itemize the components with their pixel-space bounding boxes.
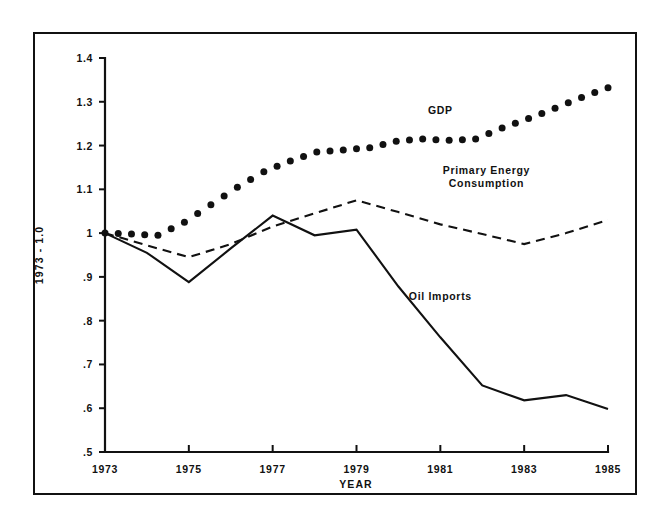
x-tick-label: 1979 xyxy=(343,463,369,475)
data-point xyxy=(366,144,373,151)
y-axis-title: 1973 - 1.0 xyxy=(33,226,45,284)
series-label-primary-energy-line1: Primary Energy xyxy=(443,164,530,176)
data-point xyxy=(181,219,188,226)
data-point xyxy=(499,125,506,132)
data-point xyxy=(287,157,294,164)
y-tick-label: .7 xyxy=(83,358,93,370)
data-point xyxy=(207,201,214,208)
y-tick-label: 1.4 xyxy=(77,52,93,64)
data-point xyxy=(247,176,254,183)
data-point xyxy=(234,184,241,191)
series-label-oil-imports: Oil Imports xyxy=(409,290,472,302)
data-series-group xyxy=(102,84,612,409)
y-tick-label: .9 xyxy=(83,271,93,283)
data-point xyxy=(274,163,281,170)
x-tick-label: 1981 xyxy=(427,463,453,475)
x-axis-title: YEAR xyxy=(339,478,373,490)
x-tick-label: 1977 xyxy=(260,463,286,475)
data-point xyxy=(393,138,400,145)
y-tick-label: 1.1 xyxy=(77,183,93,195)
data-point xyxy=(525,115,532,122)
y-tick-label: 1.3 xyxy=(77,96,93,108)
data-point xyxy=(419,135,426,142)
data-point xyxy=(552,105,559,112)
data-point xyxy=(538,110,545,117)
data-point xyxy=(115,230,122,237)
figure-container: .5.6.7.8.911.11.21.31.4 1973197519771979… xyxy=(0,0,667,522)
data-point xyxy=(327,148,334,155)
data-point xyxy=(313,149,320,156)
data-point xyxy=(406,137,413,144)
y-tick-label: 1.2 xyxy=(77,140,93,152)
data-point xyxy=(300,153,307,160)
y-tick-label: 1 xyxy=(87,227,93,239)
series-gdp-dots xyxy=(102,84,612,239)
x-tick-label: 1985 xyxy=(595,463,621,475)
x-tick-label: 1983 xyxy=(511,463,537,475)
data-point xyxy=(605,84,612,91)
series-label-gdp: GDP xyxy=(428,104,453,116)
x-tick-label: 1975 xyxy=(176,463,202,475)
data-point xyxy=(565,99,572,106)
series-label-primary-energy-line2: Consumption xyxy=(449,177,524,189)
data-point xyxy=(578,94,585,101)
y-tick-label: .8 xyxy=(83,315,93,327)
data-point xyxy=(446,137,453,144)
data-point xyxy=(340,146,347,153)
y-tick-labels: .5.6.7.8.911.11.21.31.4 xyxy=(77,52,93,458)
data-point xyxy=(260,168,267,175)
data-point xyxy=(194,210,201,217)
data-point xyxy=(128,230,135,237)
data-point xyxy=(221,192,228,199)
chart-canvas: .5.6.7.8.911.11.21.31.4 1973197519771979… xyxy=(0,0,667,522)
data-point xyxy=(141,231,148,238)
data-point xyxy=(353,145,360,152)
y-tick-label: .6 xyxy=(83,402,93,414)
data-point xyxy=(485,130,492,137)
data-point xyxy=(591,89,598,96)
data-point xyxy=(512,120,519,127)
data-point xyxy=(154,232,161,239)
x-tick-labels: 1973197519771979198119831985 xyxy=(92,463,621,475)
data-point xyxy=(432,136,439,143)
data-point xyxy=(459,136,466,143)
x-tick-label: 1973 xyxy=(92,463,118,475)
series-annotations: GDPPrimary EnergyConsumptionOil Imports xyxy=(409,104,530,302)
data-point xyxy=(472,135,479,142)
series-oil-imports-line xyxy=(105,216,608,410)
data-point xyxy=(168,225,175,232)
y-tick-label: .5 xyxy=(83,446,93,458)
data-point xyxy=(379,141,386,148)
